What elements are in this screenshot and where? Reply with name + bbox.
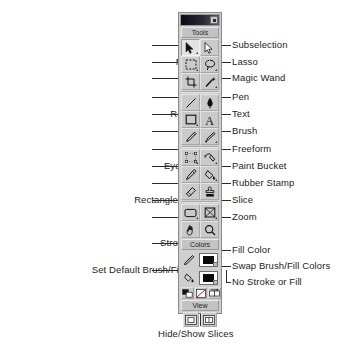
rectangle-icon <box>185 114 197 125</box>
callout-label-pen: Pen <box>232 92 249 102</box>
pen-tool[interactable] <box>200 94 219 111</box>
hand-icon <box>185 224 197 236</box>
fill-swatch-corner <box>213 280 218 285</box>
hide-show-slices-icon <box>203 315 215 325</box>
subselection-tool[interactable] <box>200 39 219 56</box>
scale-tool[interactable] <box>181 149 200 166</box>
menu-triangle-icon <box>215 162 217 164</box>
hide-show-slices-button[interactable] <box>201 312 217 327</box>
menu-triangle-icon <box>215 86 217 88</box>
marquee-tool[interactable] <box>181 56 200 73</box>
magic-wand-icon <box>204 76 216 88</box>
color-buttons-row <box>181 287 219 299</box>
menu-triangle-icon <box>196 52 198 54</box>
lasso-icon <box>204 59 216 71</box>
eraser-tool[interactable] <box>181 183 200 200</box>
default-colors-icon <box>182 289 193 298</box>
callout-label-rubber-stamp: Rubber Stamp <box>232 178 294 188</box>
callout-label-brush: Brush <box>232 126 257 136</box>
lasso-tool[interactable] <box>200 56 219 73</box>
pencil-tool[interactable] <box>181 128 200 145</box>
arrow-pointer-icon <box>185 42 196 54</box>
callout-label-magic-wand: Magic Wand <box>232 73 285 83</box>
pointer-tool[interactable] <box>181 39 200 56</box>
hand-tool[interactable] <box>181 221 200 238</box>
fill-color-swatch[interactable] <box>199 271 218 285</box>
standard-screen-mode-button[interactable] <box>183 312 199 327</box>
brush-icon <box>204 131 216 143</box>
no-stroke-fill-icon <box>196 289 206 298</box>
tools-panel: Tools <box>178 12 222 314</box>
brush-tool[interactable] <box>200 128 219 145</box>
callout-label-zoom: Zoom <box>232 212 257 222</box>
menu-triangle-icon <box>215 141 217 143</box>
colors-section-header: Colors <box>181 239 219 250</box>
rectangle-tool[interactable] <box>181 111 200 128</box>
svg-text:A: A <box>205 114 214 126</box>
rubber-stamp-tool[interactable] <box>200 183 219 200</box>
panel-divider <box>182 146 218 148</box>
swap-brush-fill-colors-button[interactable] <box>208 287 221 299</box>
panel-divider <box>182 91 218 93</box>
paint-bucket-tool[interactable] <box>200 166 219 183</box>
menu-triangle-icon <box>196 162 198 164</box>
crop-tool[interactable] <box>181 73 200 90</box>
zoom-tool[interactable] <box>200 221 219 238</box>
stroke-color-swatch[interactable] <box>199 253 218 267</box>
tools-group-web <box>181 204 219 238</box>
panel-divider <box>182 201 218 203</box>
marquee-icon <box>185 59 197 70</box>
magnifier-icon <box>204 224 216 236</box>
screen-standard-icon <box>185 315 197 325</box>
no-stroke-or-fill-button[interactable] <box>195 287 207 299</box>
callout-label-fill-color: Fill Color <box>232 245 270 255</box>
callout-label-hide-show-slices: Hide/Show Slices <box>158 329 234 339</box>
panel-title-bar[interactable] <box>180 14 220 26</box>
pencil-icon <box>185 131 197 143</box>
eyedropper-tool[interactable] <box>181 166 200 183</box>
text-tool[interactable]: A <box>200 111 219 128</box>
tools-group-select <box>181 39 219 90</box>
menu-triangle-icon <box>196 217 198 219</box>
tools-group-draw: A <box>181 94 219 145</box>
paint-bucket-small-icon <box>181 272 197 284</box>
callout-label-paint-bucket: Paint Bucket <box>232 161 287 171</box>
slice-icon <box>204 207 216 218</box>
hotspot-rect-icon <box>184 208 197 218</box>
rectangle-hotspot-tool[interactable] <box>181 204 200 221</box>
menu-triangle-icon <box>215 179 217 181</box>
view-section-header: View <box>181 300 219 311</box>
freeform-icon <box>204 152 216 164</box>
eyedropper-icon <box>185 169 197 181</box>
slice-tool[interactable] <box>200 204 219 221</box>
callout-label-text: Text <box>232 109 250 119</box>
set-default-brush-fill-colors-button[interactable] <box>181 287 194 299</box>
close-icon[interactable] <box>210 16 218 24</box>
rubber-stamp-icon <box>204 186 216 198</box>
freeform-tool[interactable] <box>200 149 219 166</box>
tools-section-header: Tools <box>181 27 219 38</box>
view-buttons-row <box>181 312 219 327</box>
paint-bucket-icon <box>204 169 216 181</box>
menu-triangle-icon <box>215 217 217 219</box>
menu-triangle-icon <box>196 69 198 71</box>
callout-label-lasso: Lasso <box>232 57 258 67</box>
fill-color-row <box>181 269 219 286</box>
text-a-icon: A <box>204 114 215 126</box>
eraser-icon <box>185 186 197 198</box>
menu-triangle-icon <box>215 69 217 71</box>
magic-wand-tool[interactable] <box>200 73 219 90</box>
line-tool[interactable] <box>181 94 200 111</box>
pen-nib-icon <box>205 97 215 109</box>
callout-label-subselection: Subselection <box>232 40 288 50</box>
pencil-stroke-icon <box>181 254 197 266</box>
stroke-color-row <box>181 251 219 268</box>
tools-group-modify <box>181 149 219 200</box>
diagram-stage: Pointer Marquee Crop Line Rectangle Penc… <box>0 0 358 349</box>
callout-label-no-stroke-or-fill: No Stroke or Fill <box>232 277 302 287</box>
callout-label-swap-brush-fill-colors: Swap Brush/Fill Colors <box>232 261 330 271</box>
callout-label-slice: Slice <box>232 195 253 205</box>
scale-icon <box>185 152 197 163</box>
crop-icon <box>185 76 197 88</box>
line-icon <box>185 97 197 109</box>
